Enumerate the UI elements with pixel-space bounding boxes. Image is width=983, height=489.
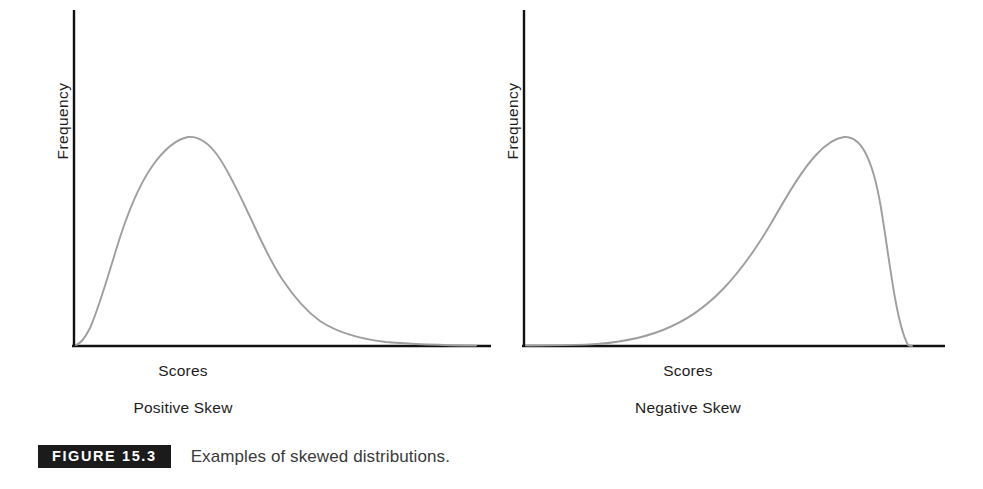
x-axis-label-scores: Scores [453, 362, 923, 380]
x-axis-label-scores: Scores [0, 362, 418, 380]
negative-skew-plot [458, 0, 928, 370]
figure-container: Frequency Scores Positive Skew Frequency… [0, 0, 983, 489]
panel-title-negative-skew: Negative Skew [453, 399, 923, 417]
chart-panel-positive-skew: Frequency Scores Positive Skew [8, 0, 478, 440]
negative-skew-curve [526, 137, 912, 346]
figure-number-badge: FIGURE 15.3 [38, 445, 171, 469]
y-axis-label-frequency: Frequency [504, 61, 522, 181]
figure-caption-text: Examples of skewed distributions. [191, 447, 450, 467]
positive-skew-curve [76, 137, 476, 346]
y-axis-label-frequency: Frequency [54, 61, 72, 181]
positive-skew-plot [8, 0, 478, 370]
panel-title-positive-skew: Positive Skew [0, 399, 418, 417]
chart-panel-negative-skew: Frequency Scores Negative Skew [458, 0, 928, 440]
figure-caption: FIGURE 15.3 Examples of skewed distribut… [38, 444, 450, 469]
